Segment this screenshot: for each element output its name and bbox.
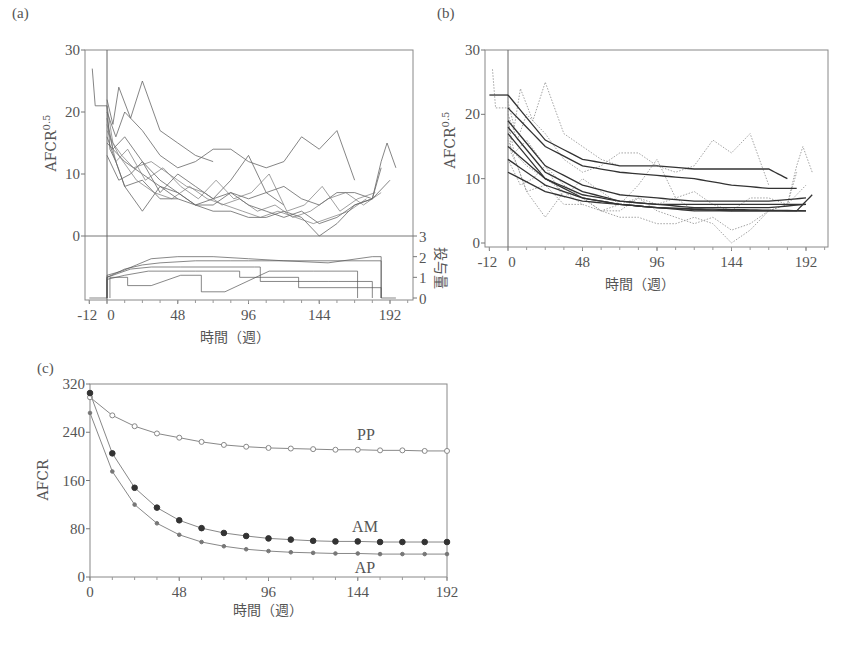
data-marker xyxy=(333,539,339,545)
data-marker xyxy=(311,447,316,452)
y-axis-label: AFCR xyxy=(35,459,51,502)
panel-a: (a)-120489614419201020300123投与量AFCR0.5時間… xyxy=(12,5,449,345)
panel-b: (b)-12048961441920102030AFCR0.5時間（週） xyxy=(437,5,828,292)
dose-tick-label: 3 xyxy=(419,229,427,245)
data-marker xyxy=(221,530,227,536)
x-tick-label: 48 xyxy=(172,584,187,600)
data-marker xyxy=(132,424,137,429)
dose-step xyxy=(107,271,381,298)
x-axis-label: 時間（週） xyxy=(200,329,270,345)
subject-trajectory xyxy=(107,112,355,180)
data-marker xyxy=(422,448,427,453)
data-marker xyxy=(177,435,182,440)
series-label-pp: PP xyxy=(357,426,375,443)
data-marker xyxy=(378,448,383,453)
data-marker xyxy=(401,552,405,556)
panel-label-b: (b) xyxy=(437,5,455,22)
dose-step xyxy=(110,271,358,298)
dose-tick-label: 2 xyxy=(419,250,427,266)
y-tick-label: 30 xyxy=(65,42,80,58)
data-marker xyxy=(267,549,271,553)
data-marker xyxy=(288,446,293,451)
x-tick-label: 96 xyxy=(261,584,277,600)
x-axis-label: 時間（週） xyxy=(233,602,303,618)
data-marker xyxy=(355,539,361,545)
data-marker xyxy=(288,537,294,543)
subject-trajectory xyxy=(107,81,213,162)
data-marker xyxy=(244,444,249,449)
data-marker xyxy=(154,431,159,436)
y-tick-label: 0 xyxy=(473,235,481,251)
data-marker xyxy=(154,505,160,511)
x-axis-label: 時間（週） xyxy=(605,276,675,292)
figure-canvas: (a)-120489614419201020300123投与量AFCR0.5時間… xyxy=(0,0,856,647)
data-marker xyxy=(221,442,226,447)
data-marker xyxy=(423,552,427,556)
data-marker xyxy=(445,448,450,453)
data-marker xyxy=(445,552,449,556)
plot-frame xyxy=(485,50,828,247)
subject-trajectory xyxy=(107,131,366,224)
y-tick-label: 10 xyxy=(465,171,480,187)
y-tick-label: 0 xyxy=(73,228,81,244)
y-tick-label: 320 xyxy=(63,376,86,392)
x-tick-label: 48 xyxy=(575,254,590,270)
x-tick-label: 0 xyxy=(107,307,115,323)
data-marker xyxy=(356,552,360,556)
data-marker xyxy=(177,533,181,537)
x-tick-label: 0 xyxy=(508,254,516,270)
data-marker xyxy=(377,539,383,545)
data-marker xyxy=(333,447,338,452)
series-label-am: AM xyxy=(352,518,378,535)
x-tick-label: 144 xyxy=(720,254,743,270)
y-tick-label: 20 xyxy=(465,106,480,122)
data-marker xyxy=(222,544,226,548)
data-marker xyxy=(355,447,360,452)
plot-frame xyxy=(85,50,413,300)
x-tick-label: 192 xyxy=(379,307,402,323)
x-tick-label: 192 xyxy=(795,254,818,270)
y-tick-label: 80 xyxy=(70,521,85,537)
data-marker xyxy=(400,539,406,545)
x-tick-label: 192 xyxy=(436,584,459,600)
dose-axis-label: 投与量 xyxy=(433,247,449,289)
panel-c: (c)04896144192080160240320PPAMAPAFCR時間（週… xyxy=(35,360,458,618)
y-tick-label: 0 xyxy=(78,569,86,585)
data-marker xyxy=(200,540,204,544)
data-marker xyxy=(199,525,205,531)
data-marker xyxy=(132,485,138,491)
x-tick-label: -12 xyxy=(477,254,497,270)
x-tick-label: 96 xyxy=(241,307,257,323)
data-marker xyxy=(310,538,316,544)
data-marker xyxy=(311,551,315,555)
y-axis-label: AFCR0.5 xyxy=(41,115,59,173)
y-tick-label: 30 xyxy=(465,42,480,58)
data-marker xyxy=(88,411,92,415)
data-marker xyxy=(244,547,248,551)
fitted-curve xyxy=(508,159,806,210)
fitted-curve xyxy=(508,121,806,201)
fitted-curve xyxy=(508,95,787,179)
fitted-curve xyxy=(508,127,806,207)
plot-frame xyxy=(90,384,447,577)
dose-tick-label: 1 xyxy=(419,270,427,286)
x-tick-label: 144 xyxy=(308,307,331,323)
data-marker xyxy=(111,470,115,474)
fitted-curve xyxy=(508,134,812,211)
series-line-pp xyxy=(90,397,447,451)
data-marker xyxy=(176,518,182,524)
y-axis-label: AFCR0.5 xyxy=(440,112,458,170)
x-tick-label: 144 xyxy=(347,584,370,600)
data-marker xyxy=(378,552,382,556)
data-marker xyxy=(289,550,293,554)
data-marker xyxy=(110,451,116,457)
dose-step xyxy=(89,261,396,298)
data-marker xyxy=(199,439,204,444)
data-marker xyxy=(334,552,338,556)
series-label-ap: AP xyxy=(355,559,376,576)
x-tick-label: 48 xyxy=(170,307,185,323)
data-marker xyxy=(243,533,249,539)
y-tick-label: 160 xyxy=(63,473,86,489)
y-tick-label: 240 xyxy=(63,424,86,440)
data-marker xyxy=(400,448,405,453)
